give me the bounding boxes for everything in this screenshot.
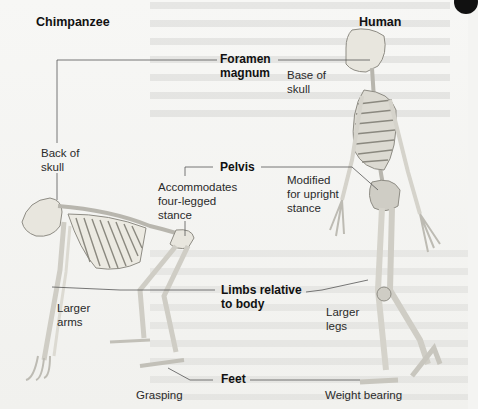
- human-limbs-desc: Larger legs: [326, 305, 359, 333]
- human-feet-desc: Weight bearing: [325, 388, 402, 402]
- feature-label-limbs-relative-to-body: Limbs relative to body: [221, 283, 302, 311]
- chimp-foramen-magnum-desc: Back of skull: [41, 146, 79, 174]
- column-title-chimpanzee: Chimpanzee: [36, 15, 110, 29]
- chimp-feet-desc: Grasping: [136, 388, 183, 402]
- chimpanzee-skeleton: [22, 198, 194, 380]
- feature-label-feet: Feet: [221, 372, 246, 386]
- chimp-limbs-desc: Larger arms: [57, 301, 90, 329]
- feature-label-pelvis: Pelvis: [220, 160, 255, 174]
- human-foramen-magnum-desc: Base of skull: [287, 68, 326, 96]
- human-pelvis-desc: Modified for upright stance: [287, 173, 339, 215]
- chimp-pelvis-desc: Accommodates four-legged stance: [158, 180, 237, 222]
- column-title-human: Human: [359, 15, 401, 29]
- feature-label-foramen-magnum: Foramen magnum: [220, 52, 271, 80]
